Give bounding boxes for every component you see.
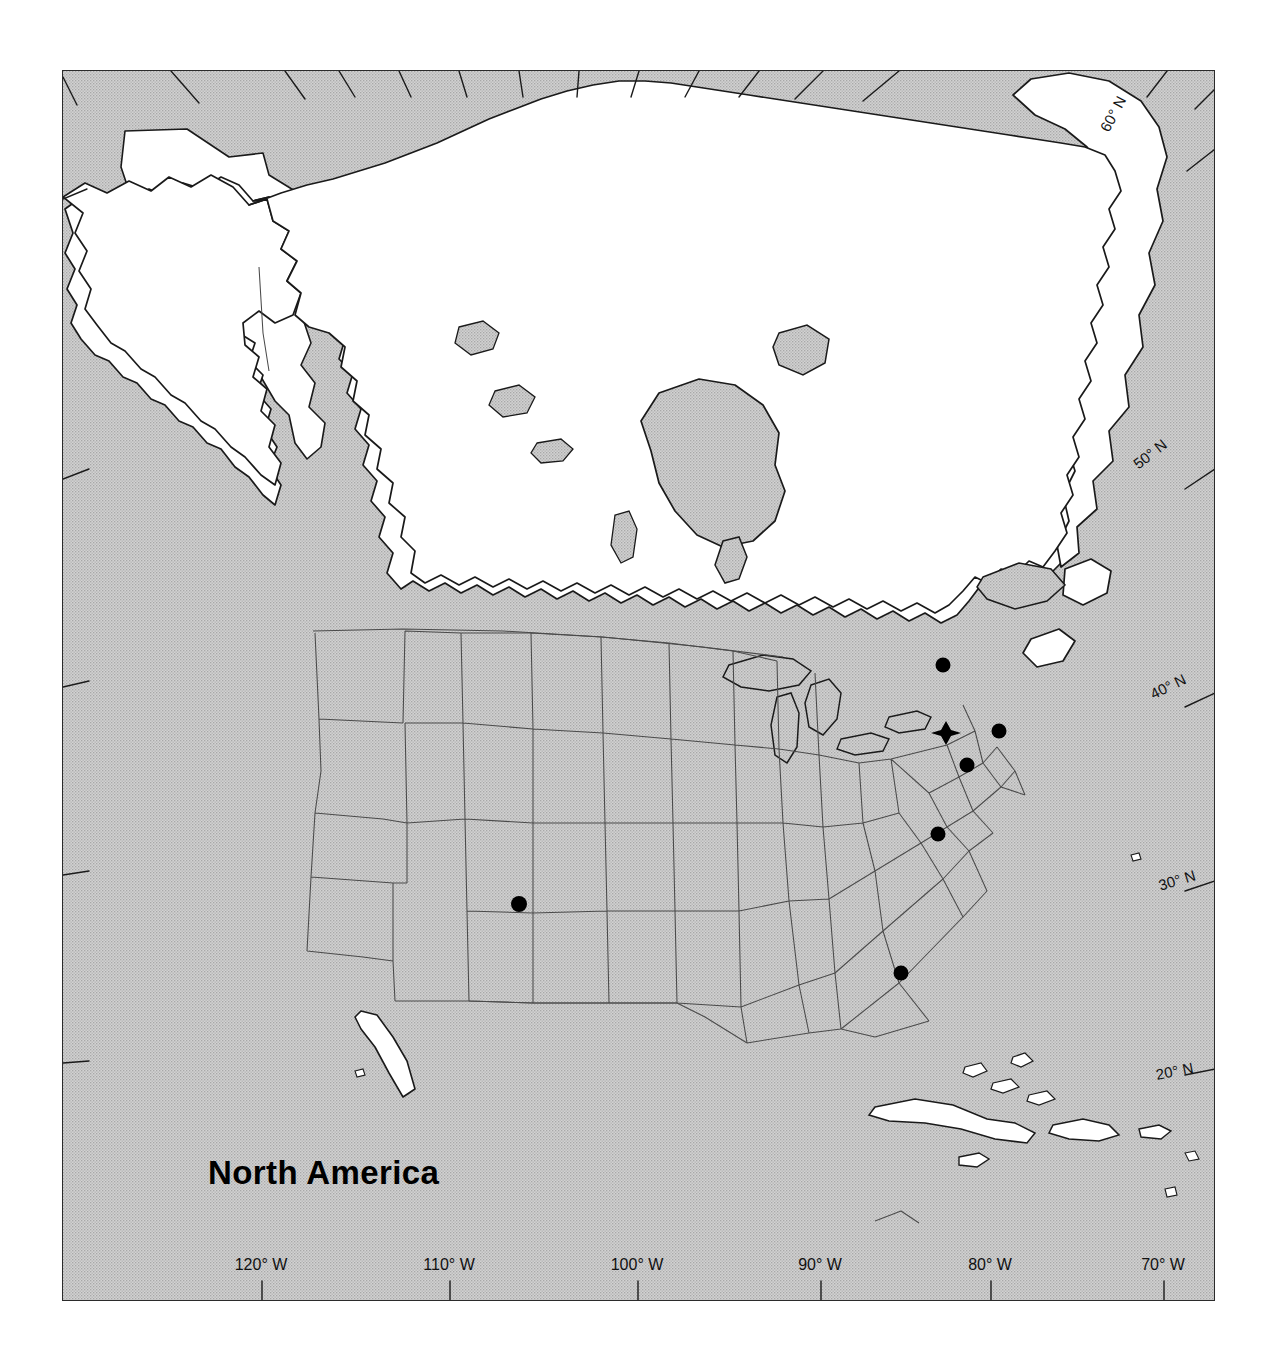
map-figure: North America 60° N 50° N 40° N 30° N 20…	[62, 70, 1215, 1301]
lon-label-70: 70° W	[1141, 1256, 1185, 1274]
site-marker-new-mexico[interactable]	[511, 896, 527, 912]
site-marker-new-york[interactable]	[960, 758, 975, 773]
site-marker-florida[interactable]	[894, 966, 909, 981]
island-pacific-speck	[355, 1069, 365, 1077]
site-marker-virginia[interactable]	[931, 827, 946, 842]
island-antilles-2	[1165, 1187, 1177, 1197]
lon-label-120: 120° W	[235, 1256, 288, 1274]
north-america-map[interactable]	[63, 71, 1215, 1301]
lon-label-90: 90° W	[798, 1256, 842, 1274]
map-frame: North America	[62, 70, 1215, 1301]
lon-label-100: 100° W	[611, 1256, 664, 1274]
site-marker-montreal[interactable]	[936, 658, 951, 673]
lon-label-80: 80° W	[968, 1256, 1012, 1274]
site-marker-boston[interactable]	[992, 724, 1007, 739]
running-head	[0, 0, 1279, 12]
island-bermuda	[1131, 853, 1141, 861]
continent-label: North America	[208, 1154, 439, 1192]
lon-label-110: 110° W	[423, 1256, 474, 1274]
